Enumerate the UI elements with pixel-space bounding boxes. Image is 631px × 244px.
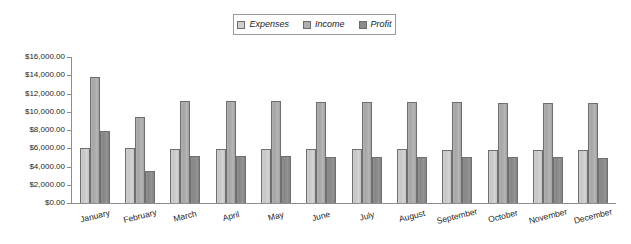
bar-expenses[interactable] — [261, 149, 271, 203]
y-axis-tick-label: $14,000.00 — [25, 71, 65, 79]
bar-group — [435, 57, 480, 203]
bar-expenses[interactable] — [442, 150, 452, 203]
y-axis-tick — [67, 112, 71, 113]
x-axis-label-cell: January — [72, 205, 117, 243]
legend-item-expenses[interactable]: Expenses — [237, 20, 289, 29]
bar-group-bars — [525, 57, 570, 203]
x-axis-tick-label: April — [221, 210, 240, 222]
bar-profit[interactable] — [372, 157, 382, 203]
bar-income[interactable] — [180, 101, 190, 203]
bar-income[interactable] — [316, 102, 326, 203]
x-axis-labels: JanuaryFebruaryMarchAprilMayJuneJulyAugu… — [72, 205, 616, 243]
bar-group-bars — [299, 57, 344, 203]
x-axis-label-cell: June — [299, 205, 344, 243]
y-axis-tick-label: $8,000.00 — [29, 126, 65, 134]
bar-groups — [72, 57, 616, 203]
bar-group — [571, 57, 616, 203]
bar-income[interactable] — [90, 77, 100, 203]
bar-income[interactable] — [226, 101, 236, 203]
bar-profit[interactable] — [236, 156, 246, 203]
x-axis-tick-label: February — [122, 208, 157, 224]
bar-expenses[interactable] — [352, 149, 362, 203]
legend-swatch-icon — [359, 21, 367, 29]
bar-group — [299, 57, 344, 203]
bar-expenses[interactable] — [125, 148, 135, 203]
legend-swatch-icon — [237, 21, 245, 29]
legend-item-label: Income — [315, 20, 345, 29]
legend-swatch-icon — [303, 21, 311, 29]
x-axis-tick-label: July — [358, 210, 375, 222]
bar-expenses[interactable] — [397, 149, 407, 203]
bar-profit[interactable] — [462, 157, 472, 203]
bar-group — [253, 57, 298, 203]
x-axis-tick-label: August — [398, 209, 426, 224]
bar-profit[interactable] — [281, 156, 291, 203]
legend-item-label: Expenses — [249, 20, 289, 29]
bar-income[interactable] — [452, 102, 462, 203]
bar-group — [344, 57, 389, 203]
bar-income[interactable] — [362, 102, 372, 203]
bar-profit[interactable] — [326, 157, 336, 203]
bar-profit[interactable] — [553, 157, 563, 203]
x-axis-label-cell: March — [163, 205, 208, 243]
legend-item-profit[interactable]: Profit — [359, 20, 392, 29]
y-axis-tick — [67, 75, 71, 76]
bar-income[interactable] — [407, 102, 417, 203]
bar-group — [208, 57, 253, 203]
bar-group — [163, 57, 208, 203]
bar-group-bars — [208, 57, 253, 203]
bar-group-bars — [389, 57, 434, 203]
x-axis-label-cell: November — [525, 205, 570, 243]
bar-expenses[interactable] — [488, 150, 498, 203]
x-axis-label-cell: October — [480, 205, 525, 243]
bar-group-bars — [72, 57, 117, 203]
bar-income[interactable] — [498, 103, 508, 203]
bar-expenses[interactable] — [533, 150, 543, 203]
bar-expenses[interactable] — [80, 148, 90, 203]
bar-income[interactable] — [271, 101, 281, 203]
y-axis-tick-label: $6,000.00 — [29, 144, 65, 152]
x-axis-label-cell: August — [389, 205, 434, 243]
bar-group-bars — [480, 57, 525, 203]
bar-expenses[interactable] — [170, 149, 180, 203]
y-axis-tick-label: $12,000.00 — [25, 90, 65, 98]
y-axis-labels: $16,000.00$14,000.00$12,000.00$10,000.00… — [6, 57, 65, 204]
legend-item-income[interactable]: Income — [303, 20, 345, 29]
x-axis-label-cell: December — [571, 205, 616, 243]
y-axis-tick — [67, 185, 71, 186]
chart-legend: Expenses Income Profit — [233, 14, 396, 35]
bar-profit[interactable] — [145, 171, 155, 203]
bar-group — [389, 57, 434, 203]
y-axis-tick — [67, 167, 71, 168]
x-axis-label-cell: April — [208, 205, 253, 243]
bar-group-bars — [344, 57, 389, 203]
bar-profit[interactable] — [190, 156, 200, 203]
plot-area — [71, 57, 616, 204]
y-axis-tick — [67, 203, 71, 204]
bar-profit[interactable] — [100, 131, 110, 203]
x-axis-line — [71, 203, 616, 204]
bar-chart: Expenses Income Profit $16,000.00$14,000… — [0, 0, 631, 244]
bar-income[interactable] — [588, 103, 598, 203]
bar-profit[interactable] — [598, 158, 608, 203]
bar-expenses[interactable] — [578, 150, 588, 203]
legend-item-label: Profit — [371, 20, 392, 29]
bar-expenses[interactable] — [216, 149, 226, 203]
bar-group-bars — [435, 57, 480, 203]
bar-profit[interactable] — [508, 157, 518, 203]
bar-expenses[interactable] — [306, 149, 316, 203]
y-axis-tick-label: $16,000.00 — [25, 53, 65, 61]
bar-income[interactable] — [135, 117, 145, 204]
bar-group-bars — [117, 57, 162, 203]
y-axis-tick-label: $4,000.00 — [29, 163, 65, 171]
x-axis-label-cell: September — [435, 205, 480, 243]
x-axis-tick-label: May — [267, 210, 285, 222]
x-axis-tick-label: November — [528, 207, 568, 225]
y-axis-tick — [67, 130, 71, 131]
x-axis-tick-label: December — [573, 207, 613, 225]
bar-income[interactable] — [543, 103, 553, 203]
bar-group-bars — [163, 57, 208, 203]
bar-group — [117, 57, 162, 203]
y-axis-tick-label: $2,000.00 — [29, 181, 65, 189]
bar-profit[interactable] — [417, 157, 427, 203]
